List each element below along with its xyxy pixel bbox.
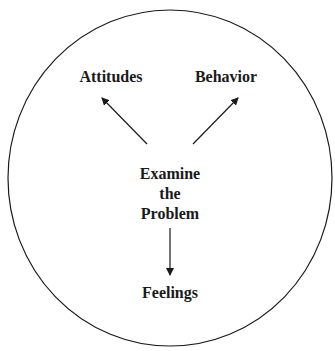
node-behavior: Behavior — [186, 67, 266, 87]
node-attitudes: Attitudes — [70, 67, 152, 87]
node-feelings: Feelings — [125, 283, 215, 303]
center-line-1: Examine — [120, 164, 220, 184]
center-node-examine-the-problem: Examine the Problem — [120, 164, 220, 224]
arrow-to-behavior — [193, 98, 238, 144]
arrow-to-attitudes — [102, 98, 147, 144]
center-line-3: Problem — [120, 204, 220, 224]
center-line-2: the — [120, 184, 220, 204]
